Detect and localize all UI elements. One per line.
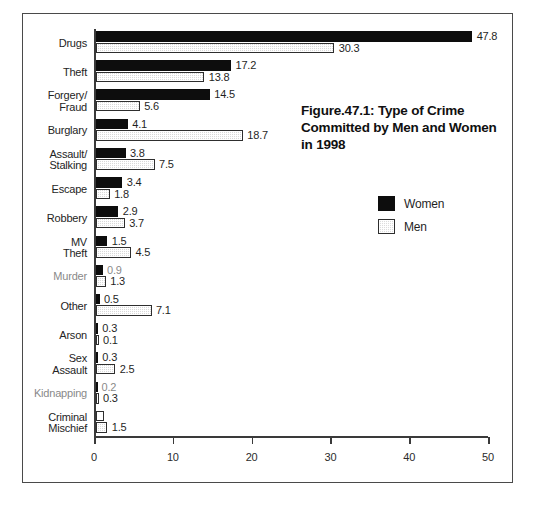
- bar-value-men: 5.6: [144, 101, 159, 112]
- bar-row: Other0.57.1: [94, 294, 488, 323]
- bar-men: [96, 43, 335, 54]
- x-tick-label-40: 40: [403, 451, 415, 463]
- bar-value-men: 2.5: [120, 364, 135, 375]
- bar-row: Kidnapping0.20.3: [94, 382, 488, 411]
- bar-value-women: 17.2: [236, 60, 257, 71]
- bar-value-women: 2.9: [123, 206, 138, 217]
- bar-value-women: 4.1: [132, 119, 147, 130]
- bar-women: [96, 323, 99, 334]
- bar-men: [96, 101, 140, 112]
- bar-value-women: 47.8: [477, 31, 498, 42]
- bar-value-men: 18.7: [247, 130, 268, 141]
- legend-label: Men: [404, 220, 427, 234]
- stippled-square-icon: [378, 219, 395, 234]
- bar-value-men: 0.3: [103, 393, 118, 404]
- bar-value-women: 14.5: [214, 89, 235, 100]
- category-label: Drugs: [59, 38, 87, 50]
- category-label: Theft: [63, 67, 87, 79]
- bar-value-men: 13.8: [209, 72, 230, 83]
- x-tick-label-50: 50: [482, 451, 494, 463]
- legend-entry-women: Women: [378, 196, 444, 211]
- bar-value-men: 7.5: [159, 159, 174, 170]
- bar-women: [96, 265, 103, 276]
- bar-men: [96, 393, 99, 404]
- category-label: Robbery: [47, 213, 87, 225]
- x-tick-label-10: 10: [167, 451, 179, 463]
- bar-value-men: 0.1: [103, 335, 118, 346]
- bar-women: [96, 382, 99, 393]
- bar-women: [96, 294, 100, 305]
- figure-frame: 01020304050 Drugs47.830.3Theft17.213.8Fo…: [22, 13, 513, 483]
- bar-value-men: 4.5: [135, 247, 150, 258]
- figure-title-line-1: Committed by Men and Women: [301, 119, 516, 136]
- bar-value-women: 0.2: [102, 382, 117, 393]
- bar-value-women: 0.3: [102, 323, 117, 334]
- category-label: Arson: [59, 330, 87, 342]
- legend-label: Women: [404, 197, 444, 211]
- category-label: Kidnapping: [34, 388, 87, 400]
- bar-women: [96, 206, 119, 217]
- bar-women: [96, 31, 473, 42]
- bar-women: [96, 411, 104, 422]
- legend-entry-men: Men: [378, 219, 444, 234]
- category-label: Burglary: [48, 125, 87, 137]
- bar-men: [96, 305, 152, 316]
- bar-row: Arson0.30.1: [94, 323, 488, 352]
- figure-title: Figure.47.1: Type of CrimeCommitted by M…: [301, 102, 516, 153]
- x-tick-50: [488, 437, 490, 444]
- bar-women: [96, 148, 126, 159]
- bar-row: Murder0.91.3: [94, 265, 488, 294]
- bar-men: [96, 159, 155, 170]
- bar-value-women: 0.9: [107, 265, 122, 276]
- bar-women: [96, 177, 123, 188]
- bar-men: [96, 218, 125, 229]
- bar-row: Sex Assault0.32.5: [94, 352, 488, 381]
- bar-row: Drugs47.830.3: [94, 31, 488, 60]
- x-tick-label-20: 20: [246, 451, 258, 463]
- bar-value-men: 1.3: [110, 276, 125, 287]
- bar-value-men: 30.3: [339, 43, 360, 54]
- bar-men: [96, 72, 205, 83]
- category-label: Escape: [52, 184, 88, 196]
- bar-value-women: 3.8: [130, 148, 145, 159]
- chart-legend: WomenMen: [378, 196, 444, 242]
- category-label: Assault/ Stalking: [49, 149, 87, 172]
- bar-row: Theft17.213.8: [94, 60, 488, 89]
- x-tick-label-0: 0: [91, 451, 97, 463]
- bar-men: [96, 189, 110, 200]
- bar-value-men: 1.5: [112, 422, 127, 433]
- category-label: Criminal Mischief: [48, 412, 87, 435]
- x-tick-label-30: 30: [324, 451, 336, 463]
- category-label: Forgery/ Fraud: [48, 90, 87, 113]
- category-label: Sex Assault: [52, 353, 87, 376]
- bar-men: [96, 422, 108, 433]
- bar-women: [96, 89, 210, 100]
- bar-men: [96, 247, 131, 258]
- bar-value-men: 7.1: [156, 305, 171, 316]
- figure-title-line-0: Figure.47.1: Type of Crime: [301, 102, 516, 119]
- bar-value-women: 0.3: [102, 352, 117, 363]
- figure-title-line-2: in 1998: [301, 136, 516, 153]
- bar-women: [96, 60, 232, 71]
- bar-value-men: 1.8: [114, 189, 129, 200]
- bar-men: [96, 130, 243, 141]
- category-label: MV Theft: [63, 237, 87, 260]
- bar-women: [96, 236, 108, 247]
- bar-value-men: 3.7: [129, 218, 144, 229]
- black-square-icon: [378, 196, 395, 211]
- category-label: Murder: [53, 271, 87, 283]
- bar-men: [96, 364, 116, 375]
- bar-men: [96, 276, 106, 287]
- bar-women: [96, 119, 128, 130]
- bar-value-women: 1.5: [112, 236, 127, 247]
- bar-value-women: 3.4: [127, 177, 142, 188]
- bar-value-women: 0.5: [104, 294, 119, 305]
- bar-row: Criminal Mischief1.5: [94, 411, 488, 440]
- bar-women: [96, 352, 99, 363]
- bar-men: [96, 335, 99, 346]
- category-label: Other: [60, 301, 87, 313]
